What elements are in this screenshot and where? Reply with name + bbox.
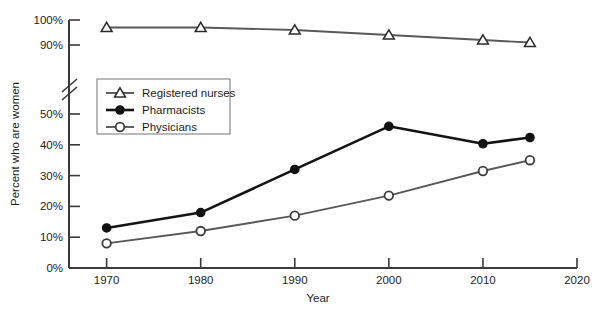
x-tick-label: 2000	[376, 274, 402, 286]
data-point	[526, 133, 534, 141]
y-tick-label: 30%	[40, 170, 63, 182]
legend-item-pharmacists[interactable]: Pharmacists	[106, 104, 206, 116]
x-tick-label: 1970	[94, 274, 120, 286]
data-point	[385, 122, 393, 130]
data-point	[103, 224, 111, 232]
x-axis-ticks	[107, 258, 577, 268]
data-point	[291, 165, 299, 173]
series-line	[107, 28, 530, 43]
legend-item-physicians[interactable]: Physicians	[106, 121, 197, 133]
y-tick-label: 20%	[40, 200, 63, 212]
y-tick-label: 100%	[34, 14, 63, 26]
series-registered-nurses	[101, 22, 535, 46]
x-tick-label: 1980	[188, 274, 214, 286]
data-point	[479, 140, 487, 148]
legend-item-label: Registered nurses	[142, 87, 236, 99]
data-point	[385, 191, 394, 200]
data-point	[102, 239, 111, 248]
legend-marker-icon	[116, 106, 124, 114]
legend-item-label: Physicians	[142, 121, 197, 133]
y-tick-label: 90%	[40, 39, 63, 51]
y-tick-label: 40%	[40, 139, 63, 151]
data-point	[290, 211, 299, 220]
data-point	[526, 156, 535, 165]
y-tick-label: 0%	[46, 262, 63, 274]
y-axis-ticks	[69, 20, 80, 268]
chart-canvas: 0%10%20%30%40%50%90%100% 197019801990200…	[0, 0, 613, 310]
legend-marker-icon	[116, 123, 125, 132]
series-physicians	[102, 156, 534, 248]
y-axis-tick-labels: 0%10%20%30%40%50%90%100%	[34, 14, 63, 274]
chart-legend: Registered nursesPharmacistsPhysicians	[97, 79, 236, 134]
series-line	[107, 160, 530, 243]
x-axis-tick-labels: 197019801990200020102020	[94, 274, 590, 286]
y-tick-label: 50%	[40, 108, 63, 120]
x-tick-label: 2020	[564, 274, 590, 286]
data-point	[196, 227, 205, 236]
data-point	[197, 208, 205, 216]
series-pharmacists	[103, 122, 535, 232]
x-axis-title: Year	[306, 292, 329, 304]
x-tick-label: 2010	[470, 274, 496, 286]
x-tick-label: 1990	[282, 274, 308, 286]
data-point	[479, 167, 488, 176]
legend-item-label: Pharmacists	[142, 104, 206, 116]
series-line	[107, 126, 530, 228]
series-layer	[101, 22, 535, 247]
y-tick-label: 10%	[40, 231, 63, 243]
line-chart: 0%10%20%30%40%50%90%100% 197019801990200…	[0, 0, 613, 310]
y-axis-title: Percent who are women	[9, 82, 21, 206]
